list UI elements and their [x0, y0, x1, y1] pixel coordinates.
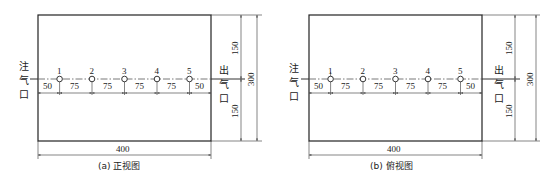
outlet-label-2: 气	[494, 78, 504, 90]
total-height-label: 300	[246, 72, 256, 86]
hole-label: 1	[328, 66, 333, 76]
spacing-label: 50	[466, 81, 476, 91]
hole-2: 2	[89, 66, 95, 95]
lower-height-label: 150	[230, 104, 240, 118]
hole-2: 2	[360, 66, 366, 95]
front-view: 注 气 口 出 气 口 1 2 3 4 5	[19, 15, 262, 171]
hole-label: 4	[155, 66, 160, 76]
outlet-label-3: 口	[494, 93, 504, 104]
height-dimensions: 150 150 300	[211, 15, 262, 141]
hole-5: 5	[187, 66, 193, 95]
inlet-label-2: 气	[289, 76, 299, 88]
spacing-label: 75	[341, 81, 351, 91]
inlet-label-3: 口	[19, 89, 29, 100]
outlet-label-1: 出	[219, 64, 229, 76]
spacing-label: 75	[374, 81, 384, 91]
front-view-caption: (a) 正视图	[98, 160, 140, 171]
spacing-label: 50	[314, 81, 324, 91]
inlet-label-1: 注	[289, 62, 299, 74]
spacing-label: 75	[103, 81, 113, 91]
inlet-label-2: 气	[19, 74, 29, 86]
hole-5: 5	[458, 66, 464, 95]
hole-label: 3	[393, 66, 398, 76]
width-dimension: 400	[38, 141, 211, 159]
lower-height-label: 150	[504, 104, 514, 118]
height-dimensions: 150 150 300	[482, 15, 540, 141]
hole-label: 5	[458, 66, 463, 76]
hole-label: 3	[122, 66, 127, 76]
hole-3: 3	[122, 66, 128, 95]
spacing-label: 75	[406, 81, 416, 91]
spacing-label: 50	[43, 81, 53, 91]
width-dimension: 400	[309, 141, 482, 159]
hole-label: 4	[426, 66, 431, 76]
hole-label: 1	[57, 66, 62, 76]
upper-height-label: 150	[504, 41, 514, 55]
hole-1: 1	[57, 66, 63, 95]
hole-1: 1	[328, 66, 334, 95]
hole-label: 5	[187, 66, 192, 76]
hole-4: 4	[154, 66, 160, 95]
outlet-label-2: 气	[219, 78, 229, 90]
width-label: 400	[387, 144, 401, 154]
hole-3: 3	[393, 66, 399, 95]
upper-height-label: 150	[230, 41, 240, 55]
top-view: 注 气 口 出 气 口 1 2 3 4 5	[289, 15, 540, 171]
total-height-label: 300	[525, 72, 535, 86]
inlet-label-3: 口	[289, 91, 299, 102]
hole-label: 2	[361, 66, 366, 76]
inlet-label-1: 注	[19, 60, 29, 72]
spacing-label: 75	[438, 81, 448, 91]
spacing-label: 50	[195, 81, 205, 91]
hole-label: 2	[90, 66, 95, 76]
spacing-label: 75	[135, 81, 145, 91]
spacing-label: 75	[167, 81, 177, 91]
hole-4: 4	[425, 66, 431, 95]
width-label: 400	[116, 144, 130, 154]
outlet-label-1: 出	[494, 64, 504, 76]
outlet-label-3: 口	[219, 93, 229, 104]
spacing-label: 75	[70, 81, 80, 91]
top-view-caption: (b) 俯视图	[370, 160, 413, 171]
